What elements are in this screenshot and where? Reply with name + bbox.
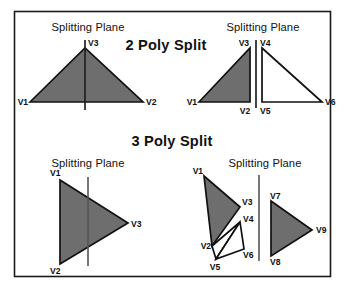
vertex-label-bottom-right-v7: V7 bbox=[270, 191, 281, 201]
vertex-label-bottom-right-v5: V5 bbox=[210, 262, 221, 272]
vertex-label-bottom-right-v9: V9 bbox=[316, 225, 327, 235]
vertex-label-bottom-right-v6: V6 bbox=[243, 250, 254, 260]
plane-label-top-left: Splitting Plane bbox=[51, 21, 124, 33]
vertex-label-top-left-v1: V1 bbox=[18, 97, 29, 107]
vertex-label-top-right-v1: V1 bbox=[187, 97, 198, 107]
vertex-label-top-right-v4: V4 bbox=[260, 38, 271, 48]
heading-three-poly-split: 3 Poly Split bbox=[131, 133, 212, 149]
vertex-label-bottom-right-v1: V1 bbox=[193, 166, 204, 176]
vertex-label-bottom-left-v1: V1 bbox=[50, 168, 61, 178]
diagram-canvas: Splitting Plane V1 V2 V3 2 Poly Split Sp… bbox=[0, 0, 344, 287]
poly-split-figure: Splitting Plane V1 V2 V3 2 Poly Split Sp… bbox=[0, 0, 344, 287]
vertex-label-bottom-left-v2: V2 bbox=[50, 266, 61, 276]
vertex-label-top-left-v2: V2 bbox=[146, 97, 157, 107]
vertex-label-top-right-v2: V2 bbox=[240, 106, 251, 116]
heading-two-poly-split: 2 Poly Split bbox=[125, 37, 206, 53]
vertex-label-top-left-v3: V3 bbox=[88, 38, 99, 48]
plane-label-bottom-left: Splitting Plane bbox=[51, 157, 124, 169]
vertex-label-bottom-right-v3: V3 bbox=[242, 197, 253, 207]
vertex-label-top-right-v3: V3 bbox=[239, 38, 250, 48]
vertex-label-top-right-v6: V6 bbox=[325, 97, 336, 107]
vertex-label-bottom-right-v2: V2 bbox=[201, 241, 212, 251]
vertex-label-top-right-v5: V5 bbox=[260, 106, 271, 116]
vertex-label-bottom-right-v4: V4 bbox=[243, 214, 254, 224]
plane-label-top-right: Splitting Plane bbox=[226, 21, 299, 33]
vertex-label-bottom-right-v8: V8 bbox=[270, 257, 281, 267]
plane-label-bottom-right: Splitting Plane bbox=[228, 157, 301, 169]
vertex-label-bottom-left-v3: V3 bbox=[131, 219, 142, 229]
